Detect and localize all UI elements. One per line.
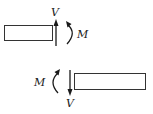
shear-moment-diagram: V M V M xyxy=(0,0,153,114)
bottom-shear-label: V xyxy=(66,97,75,110)
top-shear-arrow-up-icon xyxy=(54,19,59,46)
bottom-beam-segment xyxy=(75,74,146,90)
top-beam-segment xyxy=(5,26,53,41)
bottom-segment: V M xyxy=(33,69,146,110)
bottom-moment-counterclockwise-arc-icon xyxy=(53,69,60,93)
top-moment-clockwise-arc-icon xyxy=(66,21,72,44)
top-moment-label: M xyxy=(76,28,89,41)
top-shear-label: V xyxy=(51,6,60,19)
top-segment: V M xyxy=(5,6,90,46)
bottom-moment-label: M xyxy=(33,76,46,89)
bottom-shear-arrow-down-icon xyxy=(68,70,73,96)
